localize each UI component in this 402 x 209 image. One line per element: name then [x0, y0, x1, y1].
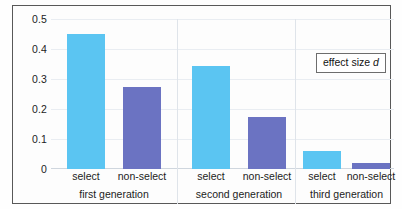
legend-label: effect size [323, 56, 370, 68]
gridline [51, 19, 394, 20]
y-axis-tick-label: 0.1 [13, 133, 47, 145]
plot-area [51, 19, 394, 169]
bar [123, 87, 161, 170]
chart-frame: 00.10.20.30.40.5 selectnon-selectselectn… [12, 5, 391, 204]
group-label: second generation [196, 188, 282, 200]
bar [352, 163, 390, 169]
group-label: first generation [79, 188, 148, 200]
y-axis-tick-label: 0.5 [13, 13, 47, 25]
category-label: non-select [118, 170, 166, 182]
legend-symbol: d [373, 56, 379, 68]
category-label: select [308, 170, 335, 182]
y-axis: 00.10.20.30.40.5 [13, 19, 47, 169]
group-label-row: first generationsecond generationthird g… [51, 188, 394, 206]
y-axis-tick-label: 0 [13, 163, 47, 175]
y-axis-tick-label: 0.4 [13, 43, 47, 55]
bar [248, 117, 286, 170]
category-label: non-select [243, 170, 291, 182]
effect-size-bar-chart-figure: 00.10.20.30.40.5 selectnon-selectselectn… [0, 0, 402, 209]
y-axis-tick-label: 0.3 [13, 73, 47, 85]
category-label: select [72, 170, 99, 182]
legend-box: effect size d [316, 53, 386, 73]
category-label: select [197, 170, 224, 182]
bar [192, 66, 230, 170]
y-axis-tick-label: 0.2 [13, 103, 47, 115]
group-label: third generation [310, 188, 383, 200]
bar [67, 34, 105, 169]
category-label: non-select [347, 170, 395, 182]
category-label-row: selectnon-selectselectnon-selectselectno… [51, 170, 394, 187]
bar [303, 151, 341, 169]
